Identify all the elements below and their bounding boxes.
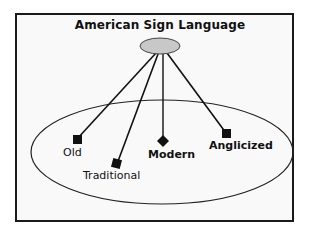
old-square-marker-icon [73,135,82,144]
anglicized-square-marker-icon [222,129,231,138]
edge-old [77,53,156,139]
node-label-modern: Modern [148,148,195,161]
node-label-old: Old [63,146,82,159]
traditional-square-marker-icon [111,158,122,169]
diagram-title: American Sign Language [0,18,311,32]
edge-anglicized [167,53,226,133]
diagram-canvas [0,0,311,233]
root-node-oval [140,38,180,54]
node-label-anglicized: Anglicized [209,139,273,152]
node-label-traditional: Traditional [83,169,140,182]
modern-diamond-marker-icon [157,135,169,147]
